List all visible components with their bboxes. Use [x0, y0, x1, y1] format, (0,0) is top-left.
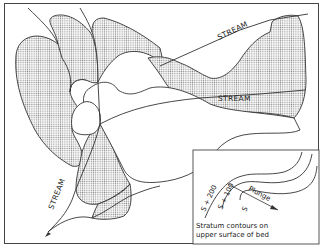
stream-label-middle: STREAM: [218, 94, 251, 103]
geologic-map-diagram: STREAM STREAM STREAM S + 200 S + 100 S P…: [0, 0, 320, 247]
stream-label-lower: STREAM: [47, 177, 68, 211]
legend-line-2: upper surface of bed: [196, 231, 316, 240]
outcrop-upper-center: [92, 18, 164, 82]
legend-line-1: Stratum contours on: [196, 222, 316, 231]
stream-branch-4: [48, 217, 92, 232]
inset-legend: Stratum contours on upper surface of bed: [196, 222, 316, 240]
stream-arrow-icon: [45, 232, 51, 237]
stream-label-upper: STREAM: [216, 19, 249, 41]
map-canvas: STREAM STREAM STREAM S + 200 S + 100 S P…: [0, 0, 320, 247]
